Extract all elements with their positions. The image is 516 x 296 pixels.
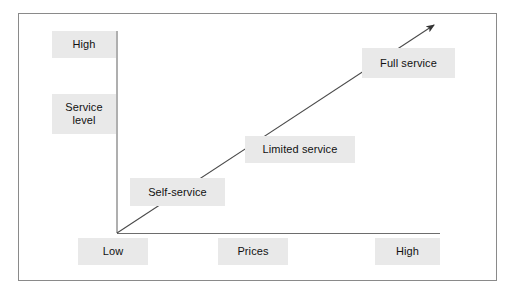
x-axis-high-label: High	[375, 238, 440, 265]
diagram-canvas: High Service level Full service Limited …	[0, 0, 516, 296]
x-axis-low-label: Low	[78, 238, 148, 265]
y-axis-title: Service level	[52, 94, 116, 134]
node-self-service: Self-service	[130, 178, 225, 206]
node-full-service: Full service	[362, 48, 455, 78]
x-axis-title: Prices	[218, 238, 288, 265]
y-axis-high-label: High	[52, 31, 116, 58]
node-limited-service: Limited service	[245, 136, 355, 163]
